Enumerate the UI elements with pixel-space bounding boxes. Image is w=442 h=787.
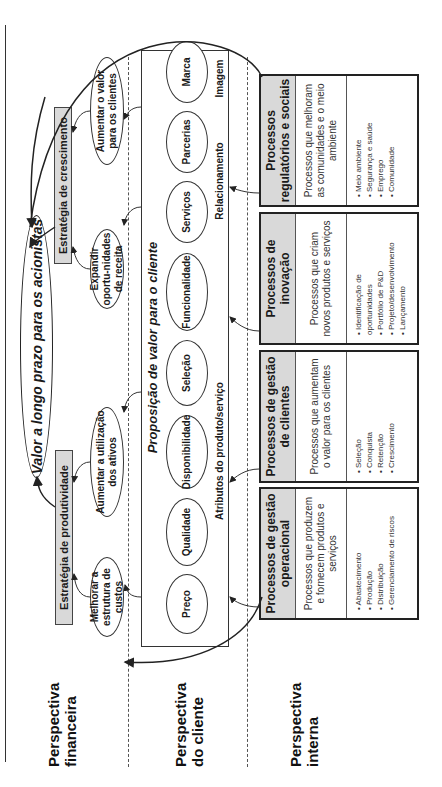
connector-arrows xyxy=(0,0,442,787)
strategy-map-diagram: Perspectiva financeira Perspectiva do cl… xyxy=(0,0,442,787)
